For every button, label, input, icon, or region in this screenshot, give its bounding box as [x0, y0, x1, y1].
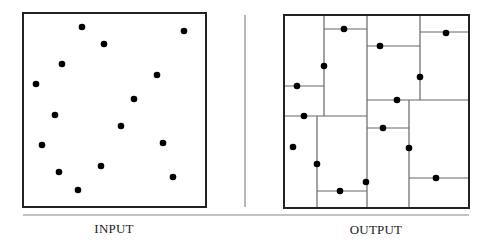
data-point: [321, 63, 328, 70]
data-point: [75, 187, 82, 194]
data-point: [394, 97, 401, 104]
data-point: [39, 142, 46, 149]
data-point: [118, 123, 125, 130]
data-point: [377, 43, 384, 50]
data-point: [314, 161, 321, 168]
output-panel-frame: [284, 15, 469, 208]
data-point: [79, 24, 86, 31]
data-point: [294, 83, 301, 90]
diagram-canvas: [0, 0, 488, 247]
data-point: [363, 179, 370, 186]
data-point: [380, 125, 387, 132]
output-points: [290, 26, 450, 195]
input-panel-frame: [23, 13, 206, 207]
data-point: [101, 41, 108, 48]
data-point: [56, 169, 63, 176]
data-point: [52, 112, 59, 119]
data-point: [160, 140, 167, 147]
data-point: [98, 163, 105, 170]
data-point: [170, 174, 177, 181]
input-label: INPUT: [94, 221, 133, 237]
data-point: [131, 96, 138, 103]
data-point: [181, 28, 188, 35]
data-point: [443, 30, 450, 37]
data-point: [433, 175, 440, 182]
input-points: [33, 24, 188, 194]
data-point: [290, 144, 297, 151]
data-point: [59, 61, 66, 68]
output-label: OUTPUT: [350, 222, 402, 238]
data-point: [417, 74, 424, 81]
data-point: [337, 188, 344, 195]
data-point: [341, 26, 348, 33]
data-point: [154, 72, 161, 79]
data-point: [406, 145, 413, 152]
data-point: [33, 81, 40, 88]
output-partition-lines: [284, 15, 469, 208]
data-point: [301, 113, 308, 120]
